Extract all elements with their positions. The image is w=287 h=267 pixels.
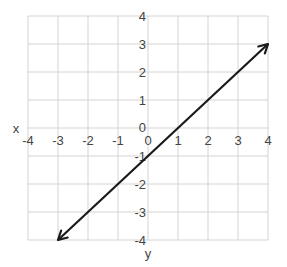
left-axis-name: x (13, 121, 20, 136)
x-tick-label: -1 (112, 133, 124, 148)
y-tick-label: 0 (139, 120, 146, 135)
y-tick-label: -3 (134, 205, 146, 220)
y-tick-label: -1 (134, 149, 146, 164)
y-tick-label: 2 (139, 65, 146, 80)
x-tick-label: -4 (22, 133, 34, 148)
x-tick-label: 1 (174, 133, 181, 148)
y-tick-label: -2 (134, 177, 146, 192)
x-tick-label: 0 (144, 133, 151, 148)
x-tick-label: -2 (82, 133, 94, 148)
bottom-axis-name: y (145, 246, 152, 261)
y-tick-label: 3 (139, 37, 146, 52)
coordinate-plane: -4-3-2-10123443210-1-2-3-4 x y (0, 0, 287, 267)
y-tick-label: 1 (139, 93, 146, 108)
x-tick-label: -3 (52, 133, 64, 148)
y-tick-label: 4 (139, 9, 146, 24)
x-tick-label: 3 (234, 133, 241, 148)
x-tick-label: 2 (204, 133, 211, 148)
grid (28, 16, 268, 240)
x-tick-label: 4 (264, 133, 271, 148)
